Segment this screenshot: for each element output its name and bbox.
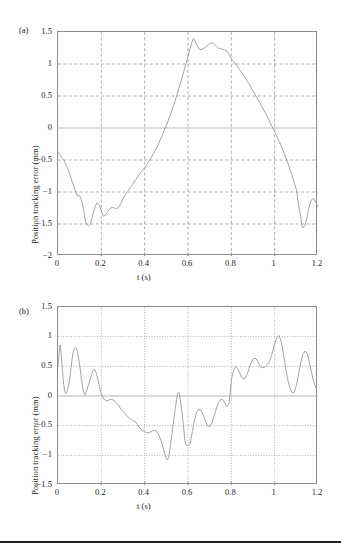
figure-container: (a) Position tracking error (mm) −2−1.5−… [0,0,341,550]
x-tick-label: 1 [259,487,289,497]
x-tick-label: 1.2 [302,487,332,497]
x-tick-label: 0.6 [172,258,202,268]
y-tick-label: −1 [14,186,52,196]
x-tick-label: 0.4 [129,258,159,268]
y-tick-label: 0.5 [14,360,52,370]
chart-panel-a: (a) Position tracking error (mm) −2−1.5−… [0,14,341,286]
panel-b-plot-svg [58,307,318,485]
bottom-divider-rule [0,541,341,543]
panel-a-plot-area [57,31,317,255]
y-tick-label: 1 [14,330,52,340]
panel-a-x-axis-label: t (s) [137,272,237,282]
chart-panel-b: (b) Position tracking error (mm) −1.5−1−… [0,289,341,534]
x-tick-label: 1 [259,258,289,268]
y-tick-label: −0.5 [14,154,52,164]
x-tick-label: 0.6 [172,487,202,497]
x-tick-label: 1.2 [302,258,332,268]
x-tick-label: 0.8 [215,487,245,497]
panel-b-plot-area [57,306,317,484]
data-series-line [58,335,316,460]
y-tick-label: 1.5 [14,301,52,311]
y-tick-label: 0 [14,122,52,132]
y-tick-label: −1 [14,449,52,459]
panel-a-plot-svg [58,32,318,256]
x-tick-label: 0.2 [85,487,115,497]
y-tick-label: 1 [14,58,52,68]
x-tick-label: 0 [42,487,72,497]
x-tick-label: 0.2 [85,258,115,268]
y-tick-label: 1.5 [14,26,52,36]
y-tick-label: −1.5 [14,218,52,228]
x-tick-label: 0.8 [215,258,245,268]
y-tick-label: −0.5 [14,419,52,429]
x-tick-label: 0.4 [129,487,159,497]
y-tick-label: 0.5 [14,90,52,100]
y-tick-label: 0 [14,390,52,400]
x-tick-label: 0 [42,258,72,268]
panel-b-x-axis-label: t (s) [137,501,237,511]
